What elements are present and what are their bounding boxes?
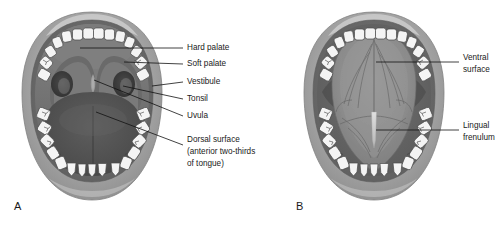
figure-canvas: Hard palate Soft palate Vestibule Tonsil… <box>0 0 497 230</box>
panel-a: Hard palate Soft palate Vestibule Tonsil… <box>14 12 255 212</box>
label-dorsal-surface-line3: of tongue) <box>187 159 224 168</box>
label-hard-palate: Hard palate <box>187 43 230 52</box>
label-ventral-surface-line2: surface <box>463 65 490 74</box>
label-vestibule: Vestibule <box>187 77 221 86</box>
label-ventral-surface-line1: Ventral <box>463 53 489 62</box>
panel-letter-b: B <box>296 200 303 212</box>
label-dorsal-surface-line1: Dorsal surface <box>187 135 240 144</box>
panel-letter-a: A <box>14 200 22 212</box>
label-soft-palate: Soft palate <box>187 59 227 68</box>
label-tonsil: Tonsil <box>187 94 208 103</box>
label-dorsal-surface-line2: (anterior two-thirds <box>187 147 255 156</box>
label-uvula: Uvula <box>187 111 208 120</box>
panel-b: Ventral surface Lingual frenulum B <box>296 12 495 212</box>
label-lingual-frenulum-line1: Lingual <box>463 121 490 130</box>
oral-cavity-figure: Hard palate Soft palate Vestibule Tonsil… <box>0 0 497 230</box>
label-lingual-frenulum-line2: frenulum <box>463 133 495 142</box>
